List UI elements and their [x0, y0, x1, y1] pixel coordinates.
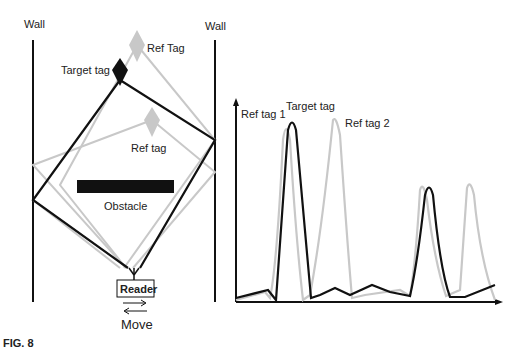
right-wall-label: Wall — [205, 20, 226, 32]
figure-canvas: Wall Wall Ref Tag Target tag Ref tag Obs… — [0, 0, 521, 350]
ref-tag-1-label: Ref tag 1 — [241, 108, 286, 120]
ref-tag-2-label: Ref tag 2 — [345, 117, 390, 129]
ref-tag-curves — [236, 119, 495, 300]
target-tag-curve — [236, 123, 495, 301]
move-arrows-icon — [123, 300, 147, 314]
x-axis-arrow-icon — [495, 299, 503, 305]
target-tag-icon — [112, 58, 128, 86]
move-label: Move — [121, 317, 153, 332]
ref-tag-mid-icon — [144, 107, 160, 137]
ref-tag-top-label: Ref Tag — [147, 42, 185, 54]
ref-signal-paths — [33, 45, 215, 268]
antenna-icon — [129, 268, 139, 280]
reader-label: Reader — [120, 283, 158, 295]
ref-tag-mid-label: Ref tag — [131, 142, 166, 154]
obstacle — [77, 180, 174, 193]
y-axis-arrow-icon — [233, 98, 239, 106]
chart-target-tag-label: Target tag — [286, 100, 335, 112]
target-tag-label: Target tag — [61, 64, 110, 76]
left-wall-label: Wall — [24, 18, 45, 30]
obstacle-label: Obstacle — [104, 200, 147, 212]
figure-caption: FIG. 8 — [3, 337, 34, 349]
